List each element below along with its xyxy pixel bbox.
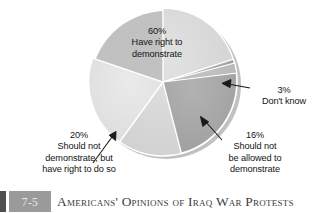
- pie-label-should-not-be-allowed-line2: be allowed to: [208, 153, 302, 164]
- caption-accent-bar: [0, 191, 6, 212]
- pie-label-dont-know-line1: Don't know: [253, 96, 315, 107]
- pie-label-have-right: 60% Have right to demonstrate: [101, 26, 213, 60]
- pie-label-should-not-be-allowed-percent: 16%: [208, 130, 302, 141]
- pie-label-dont-know: 3% Don't know: [253, 85, 315, 108]
- figure-caption-bar: 7-5 Americans' Opinions of Iraq War Prot…: [0, 191, 319, 213]
- pie-label-should-not-but-right-line1: Should not: [16, 141, 142, 152]
- pie-label-should-not-be-allowed: 16% Should not be allowed to demonstrate: [208, 130, 302, 175]
- pie-label-have-right-percent: 60%: [101, 26, 213, 37]
- chart-plot-area: 60% Have right to demonstrate 3% Don't k…: [0, 0, 319, 188]
- pie-label-should-not-but-right-line3: have right to do so: [16, 164, 142, 175]
- pie-label-have-right-line1: Have right to: [101, 37, 213, 48]
- figure-pie-chart: 60% Have right to demonstrate 3% Don't k…: [0, 0, 319, 213]
- figure-caption-text: Americans' Opinions of Iraq War Protests: [57, 192, 294, 212]
- pie-label-should-not-be-allowed-line3: demonstrate: [208, 164, 302, 175]
- pie-label-dont-know-percent: 3%: [253, 85, 315, 96]
- pie-label-should-not-but-right-line2: demonstrate, but: [16, 153, 142, 164]
- pie-label-should-not-be-allowed-line1: Should not: [208, 141, 302, 152]
- figure-number-badge: 7-5: [9, 191, 51, 212]
- pie-label-should-not-but-right: 20% Should not demonstrate, but have rig…: [16, 130, 142, 175]
- pie-label-have-right-line2: demonstrate: [101, 49, 213, 60]
- pie-label-should-not-but-right-percent: 20%: [16, 130, 142, 141]
